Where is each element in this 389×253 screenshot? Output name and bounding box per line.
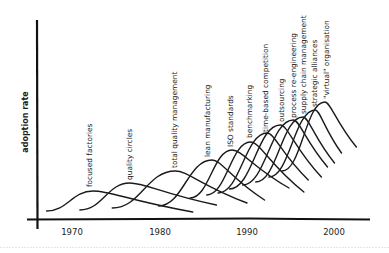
series-label-1: quality circles — [125, 129, 134, 180]
x-tick-1990: 1990 — [236, 227, 258, 237]
series-label-2: total quality management — [170, 72, 179, 168]
series-label-11: "virtual" organisation — [322, 20, 331, 99]
x-axis — [27, 219, 370, 220]
x-tick-1970: 1970 — [61, 227, 83, 237]
series-label-6: time-based competition — [261, 44, 270, 132]
series-label-3: lean manufacturing — [203, 84, 212, 157]
adoption-rate-chart: adoption rate 1970 1980 1990 2000 focuse… — [0, 0, 389, 253]
y-axis-label: adoption rate — [21, 91, 30, 153]
y-axis — [37, 20, 38, 229]
series-label-4: ISO standards — [226, 95, 235, 147]
series-label-5: benchmarking — [245, 85, 254, 138]
x-tick-1980: 1980 — [149, 227, 171, 237]
x-tick-labels: 1970 1980 1990 2000 — [61, 227, 345, 237]
series-label-8: process re-engineering — [289, 33, 298, 118]
x-tick-2000: 2000 — [323, 227, 345, 237]
series-label-0: focused factories — [85, 123, 94, 187]
series-label-10: strategic alliances — [310, 40, 319, 107]
series-label-7: outsourcing — [277, 78, 286, 122]
series-label-9: supply chain management — [299, 15, 308, 114]
